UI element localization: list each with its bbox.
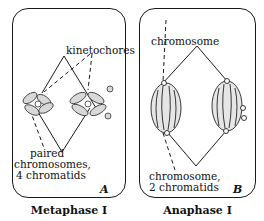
caption-metaphase: Metaphase I (12, 204, 126, 217)
metaphase-chromosome-pair-left (21, 90, 55, 117)
anaphase-chromosome-group-left (151, 81, 181, 136)
caption-anaphase: Anaphase I (139, 204, 256, 217)
metaphase-chromosome-pair-right (68, 86, 113, 119)
label-chromatids-line2: 2 chromatids (149, 182, 219, 193)
label-paired-line3: 4 chromatids (16, 170, 86, 181)
panel-letter-a: A (100, 183, 109, 196)
label-kinetochores: kinetochores (66, 45, 135, 56)
panel-letter-b: B (233, 183, 242, 196)
diagram-artwork (0, 0, 264, 221)
anaphase-chromosome-group-right (212, 79, 247, 134)
label-chromosome: chromosome (151, 36, 219, 47)
